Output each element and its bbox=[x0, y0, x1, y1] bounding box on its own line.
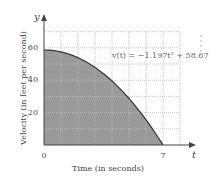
y-axis-letter: y bbox=[33, 11, 40, 22]
velocity-chart: y t 0 7 20 40 60 v(t) = −1.197t² + 58.67… bbox=[0, 0, 209, 184]
equation-label: v(t) = −1.197t² + 58.67 bbox=[111, 51, 208, 60]
y-axis-label: Velocity (in feet per second) bbox=[19, 31, 28, 146]
y-tick-60: 60 bbox=[28, 43, 38, 52]
x-axis-label: Time (in seconds) bbox=[72, 164, 144, 173]
x-tick-7: 7 bbox=[160, 151, 165, 160]
y-tick-20: 20 bbox=[28, 108, 38, 117]
x-axis-letter: t bbox=[192, 149, 197, 160]
x-axis-arrow-icon bbox=[189, 142, 196, 148]
y-axis-arrow-icon bbox=[41, 14, 47, 21]
shaded-area bbox=[44, 50, 163, 145]
ellipsis-icon[interactable] bbox=[200, 35, 202, 52]
x-tick-0: 0 bbox=[41, 151, 46, 160]
y-tick-40: 40 bbox=[28, 75, 38, 84]
